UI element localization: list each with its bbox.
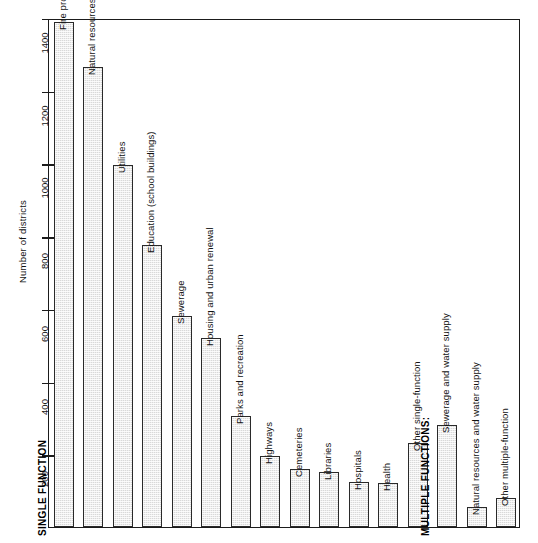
bar bbox=[319, 472, 339, 527]
bar bbox=[260, 456, 280, 527]
group-label-single-function: SINGLE FUNCTION bbox=[37, 440, 48, 536]
bar bbox=[437, 425, 457, 527]
bar-label: Health bbox=[381, 463, 392, 491]
bar bbox=[113, 165, 133, 527]
bar-label: Hospitals bbox=[352, 450, 363, 490]
bar-label: Natural resources and water supply bbox=[470, 362, 481, 515]
bar-label: Sewerage and water supply bbox=[440, 313, 451, 433]
bar-label: Utilities bbox=[116, 142, 127, 174]
bar-series: Fire protectionNatural resourcesUtilitie… bbox=[49, 20, 519, 527]
bar bbox=[83, 67, 103, 527]
bar bbox=[290, 469, 310, 527]
chart-root: Number of districts 20040060080010001200… bbox=[0, 0, 538, 543]
bar bbox=[142, 245, 162, 527]
plot-area: 200400600800100012001400 Fire protection… bbox=[48, 19, 520, 528]
bar-label: Sewerage bbox=[175, 281, 186, 325]
bar-label: Education (school buildings) bbox=[145, 132, 156, 254]
bar-label: Highways bbox=[263, 422, 274, 464]
bar-label: Parks and recreation bbox=[234, 334, 245, 424]
bar bbox=[172, 316, 192, 527]
bar-label: Housing and urban renewal bbox=[204, 227, 215, 346]
bar-label: Cemeteries bbox=[293, 427, 304, 477]
y-axis-title: Number of districts bbox=[17, 172, 28, 312]
bar-label: Libraries bbox=[322, 443, 333, 480]
group-label-multiple-functions: MULTIPLE FUNCTIONS: bbox=[420, 417, 431, 536]
bar-label: Other multiple-function bbox=[499, 408, 510, 506]
bar bbox=[231, 416, 251, 527]
bar-label: Fire protection bbox=[57, 0, 68, 30]
bar bbox=[54, 22, 74, 527]
bar-label: Natural resources bbox=[86, 0, 97, 75]
bar bbox=[201, 338, 221, 527]
